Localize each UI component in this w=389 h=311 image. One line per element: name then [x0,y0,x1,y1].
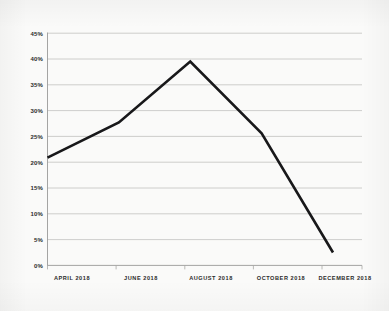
line-chart: 45% 40% 35% 30% 25% 20% 15% 10% 5% 0% AP… [0,0,389,311]
x-axis-labels: APRIL 2018 JUNE 2018 AUGUST 2018 OCTOBER… [54,275,372,281]
x-axis-label-april: APRIL 2018 [54,275,90,281]
y-axis-label-15: 15% [30,185,43,191]
data-series-line [48,62,334,253]
y-axis-label-40: 40% [30,56,43,62]
gridlines [48,33,363,239]
y-axis-label-25: 25% [30,134,43,140]
chart-plot-area: 45% 40% 35% 30% 25% 20% 15% 10% 5% 0% AP… [0,0,389,311]
x-axis-label-december: DECEMBER 2018 [318,275,371,281]
y-axis-label-30: 30% [30,108,43,114]
y-axis-label-5: 5% [34,237,44,243]
y-axis-label-10: 10% [30,211,43,217]
x-tick-marks [48,265,363,269]
y-axis-label-45: 45% [30,31,43,37]
x-axis-label-august: AUGUST 2018 [189,275,233,281]
y-axis-labels: 45% 40% 35% 30% 25% 20% 15% 10% 5% 0% [30,31,43,269]
y-axis-label-0: 0% [34,263,44,269]
y-axis-label-20: 20% [30,160,43,166]
y-axis-label-35: 35% [30,82,43,88]
x-axis-label-october: OCTOBER 2018 [257,275,305,281]
x-axis-label-june: JUNE 2018 [124,275,158,281]
